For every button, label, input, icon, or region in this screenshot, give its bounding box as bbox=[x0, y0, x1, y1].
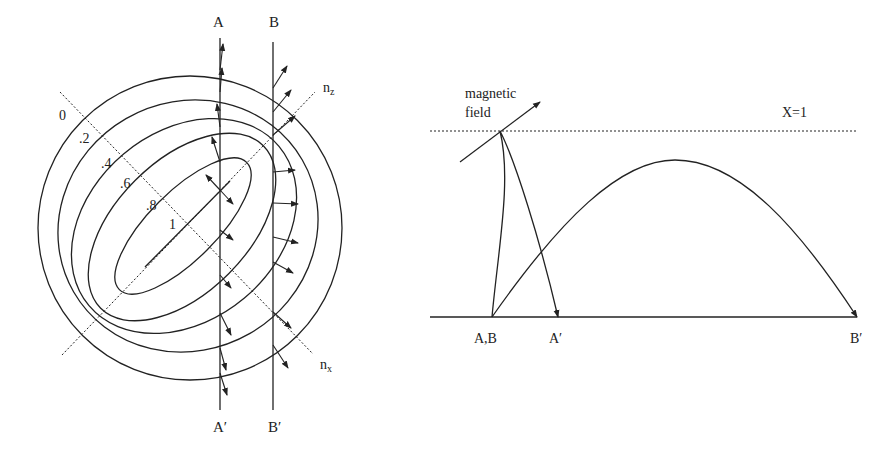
end-A-label: A′ bbox=[549, 331, 562, 346]
ray-B-prime-label: B′ bbox=[268, 419, 281, 435]
right-ray-path-diagram bbox=[430, 102, 857, 317]
contour-0-2 bbox=[12, 53, 365, 400]
contour-label-0-2: .2 bbox=[79, 131, 90, 146]
end-B-label: B′ bbox=[850, 331, 862, 346]
contour-label-0-6: .6 bbox=[120, 176, 131, 191]
ray-A-label: A bbox=[213, 14, 224, 30]
contour-0-8 bbox=[95, 138, 270, 313]
left-contour-diagram bbox=[12, 38, 365, 410]
contour-label-0-8: .8 bbox=[146, 198, 157, 213]
cutoff-label: X=1 bbox=[782, 105, 807, 120]
nz-axis-label: nz bbox=[323, 80, 335, 97]
contour-label-0: 0 bbox=[59, 108, 66, 123]
contour-label-0-4: .4 bbox=[101, 156, 112, 171]
diagram-canvas: A B A′ B′ nz nx 0 .2 .4 .6 .8 1 magnetic… bbox=[0, 0, 888, 452]
ray-A-prime-label: A′ bbox=[213, 419, 227, 435]
contour-0-4 bbox=[29, 74, 340, 377]
ray-B-path bbox=[492, 160, 857, 317]
nx-axis-label: nx bbox=[320, 357, 332, 374]
ray-B-label: B bbox=[269, 14, 279, 30]
magnetic-field-label-1: magnetic bbox=[465, 86, 516, 101]
ray-A-path bbox=[492, 131, 558, 317]
contour-label-1: 1 bbox=[169, 217, 176, 232]
magnetic-field-label-2: field bbox=[465, 105, 491, 120]
start-label: A,B bbox=[474, 331, 497, 346]
